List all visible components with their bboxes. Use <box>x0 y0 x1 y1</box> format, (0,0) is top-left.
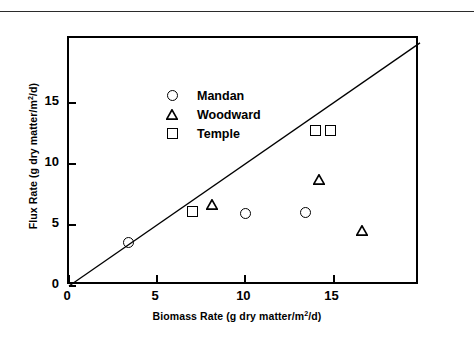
y-tick-0 <box>69 285 76 287</box>
chart-legend: MandanWoodwardTemple <box>161 86 301 143</box>
square-marker <box>167 128 178 139</box>
one-to-one-reference-line <box>69 38 420 286</box>
x-tick-label-5: 5 <box>135 288 175 303</box>
x-tick-15 <box>333 275 335 282</box>
x-axis-title-post: /d) <box>308 310 321 322</box>
y-tick-10 <box>69 163 76 165</box>
y-tick-label-5: 5 <box>27 215 59 230</box>
y-tick-label-15: 15 <box>27 93 59 108</box>
scatter-plot-figure: Flux Rate (g dry matter/m2/d) Biomass Ra… <box>0 0 474 349</box>
y-tick-15 <box>69 102 76 104</box>
y-tick-5 <box>69 224 76 226</box>
legend-marker-woodward <box>161 105 183 124</box>
x-tick-0 <box>68 275 70 282</box>
triangle-marker <box>166 109 178 120</box>
x-tick-label-10: 10 <box>223 288 263 303</box>
plot-frame: MandanWoodwardTemple <box>67 36 418 284</box>
legend-marker-temple <box>161 124 183 143</box>
legend-label-temple: Temple <box>197 127 240 141</box>
x-tick-label-15: 15 <box>312 288 352 303</box>
legend-label-mandan: Mandan <box>197 89 244 103</box>
y-tick-label-10: 10 <box>27 154 59 169</box>
plot-area: MandanWoodwardTemple <box>69 38 416 282</box>
legend-marker-mandan <box>161 86 183 105</box>
x-tick-5 <box>156 275 158 282</box>
legend-item-woodward: Woodward <box>161 105 301 124</box>
x-tick-label-0: 0 <box>47 288 87 303</box>
x-axis-title-pre: Biomass Rate (g dry matter/m <box>153 310 305 322</box>
legend-item-mandan: Mandan <box>161 86 301 105</box>
x-tick-10 <box>244 275 246 282</box>
legend-label-woodward: Woodward <box>197 108 261 122</box>
circle-marker <box>167 90 178 101</box>
x-axis-title: Biomass Rate (g dry matter/m2/d) <box>0 310 474 322</box>
legend-item-temple: Temple <box>161 124 301 143</box>
